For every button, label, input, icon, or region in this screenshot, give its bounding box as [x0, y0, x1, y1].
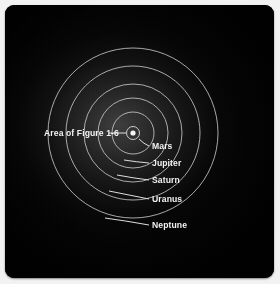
- label-uranus: Uranus: [152, 194, 182, 204]
- label-mars: Mars: [152, 141, 173, 151]
- figure-frame: Area of Figure 1-6 Mars Jupiter Saturn U…: [0, 0, 280, 284]
- sky-panel: Area of Figure 1-6 Mars Jupiter Saturn U…: [5, 5, 274, 278]
- label-jupiter: Jupiter: [152, 158, 182, 168]
- leader-line-saturn: [117, 175, 149, 180]
- label-saturn: Saturn: [152, 175, 180, 185]
- sun-dot: [130, 130, 135, 135]
- orbit-diagram: Area of Figure 1-6 Mars Jupiter Saturn U…: [5, 5, 274, 278]
- leader-line-jupiter: [124, 160, 149, 163]
- label-area-of-figure: Area of Figure 1-6: [44, 128, 119, 138]
- leader-line-mars: [139, 139, 149, 146]
- leader-line-neptune: [105, 218, 149, 225]
- label-neptune: Neptune: [152, 220, 187, 230]
